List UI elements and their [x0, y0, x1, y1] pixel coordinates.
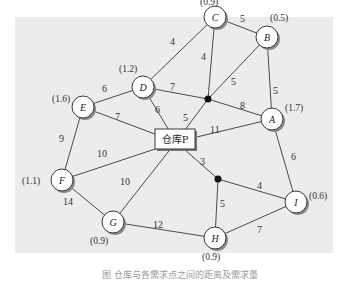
junction-point [205, 96, 212, 103]
node-C: C (0.9) [200, 0, 228, 30]
weight-P-J1: 5 [183, 112, 188, 123]
warehouse-node: 仓库P [155, 129, 197, 151]
node-I: I (0.6) [285, 191, 327, 215]
weight-P-A: 11 [210, 124, 220, 135]
weight-G-P: 10 [120, 176, 130, 187]
network-diagram: 4 5 4 7 5 5 8 5 6 6 7 11 9 10 10 14 3 4 … [0, 0, 349, 281]
node-label-F: F [58, 175, 66, 186]
node-label-C: C [212, 12, 219, 23]
edge-H-I [215, 202, 296, 238]
edges [62, 17, 296, 238]
demand-H: (0.9) [202, 252, 220, 263]
weight-E-F: 9 [59, 133, 64, 144]
node-G: G (0.9) [90, 211, 126, 247]
node-label-A: A [268, 114, 276, 125]
figure-caption: 图 仓库与各需求点之间的距离及需求量 [60, 268, 300, 281]
weight-F-P: 10 [97, 148, 107, 159]
node-F: F (1.1) [22, 169, 75, 193]
weight-P-J2: 3 [200, 156, 205, 167]
node-A: A (1.7) [261, 103, 303, 132]
weight-A-I: 6 [291, 151, 296, 162]
node-D: D (1.2) [119, 64, 156, 100]
demand-E: (1.6) [52, 94, 70, 105]
weight-B-A: 5 [273, 85, 278, 96]
weight-D-J1: 7 [170, 81, 175, 92]
weight-D-C: 4 [170, 36, 175, 47]
node-label-E: E [79, 102, 86, 113]
node-label-H: H [210, 233, 219, 244]
node-B: B (0.5) [256, 13, 288, 50]
node-label-G: G [109, 217, 116, 228]
weight-H-I: 7 [257, 224, 262, 235]
demand-F: (1.1) [22, 176, 40, 187]
warehouse-label: 仓库P [162, 133, 189, 145]
demand-G: (0.9) [90, 236, 108, 247]
weight-G-H: 12 [153, 219, 163, 230]
edge-B-J1 [208, 37, 267, 99]
weight-F-G: 14 [63, 196, 73, 207]
demand-D: (1.2) [119, 64, 137, 75]
demand-I: (0.6) [309, 191, 327, 202]
demand-C: (0.9) [200, 0, 218, 8]
weight-C-J1: 4 [201, 51, 206, 62]
node-H: H (0.9) [202, 227, 228, 263]
weight-C-B: 5 [240, 13, 245, 24]
node-label-I: I [293, 197, 298, 208]
junction-point [215, 176, 222, 183]
weight-B-J1: 5 [231, 76, 236, 87]
weight-J2-I: 4 [257, 180, 262, 191]
demand-A: (1.7) [285, 103, 303, 114]
weight-J2-H: 5 [220, 198, 225, 209]
weight-E-D: 6 [102, 83, 107, 94]
weight-D-P: 6 [155, 104, 160, 115]
edge-G-H [113, 222, 215, 238]
node-label-B: B [264, 32, 270, 43]
node-label-D: D [138, 82, 147, 93]
node-E: E (1.6) [52, 94, 96, 120]
demand-B: (0.5) [270, 13, 288, 24]
weight-J1-A: 8 [240, 100, 245, 111]
weight-E-P: 7 [115, 111, 120, 122]
